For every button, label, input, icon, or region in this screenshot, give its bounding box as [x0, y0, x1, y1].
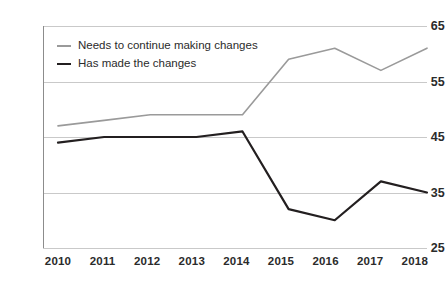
- legend-swatch-icon-1: [57, 63, 71, 65]
- line-chart: 65 55 45 35 25 2010 2011 2012 2013 2014 …: [0, 0, 445, 282]
- legend: Needs to continue making changes Has mad…: [57, 38, 258, 74]
- legend-swatch-icon-0: [57, 45, 71, 47]
- legend-label-1: Has made the changes: [78, 58, 196, 70]
- series-line-has-made-the-changes: [58, 131, 427, 220]
- legend-label-0: Needs to continue making changes: [78, 40, 258, 52]
- legend-item-has-made-the-changes: Has made the changes: [57, 56, 258, 71]
- legend-item-needs-to-continue: Needs to continue making changes: [57, 38, 258, 53]
